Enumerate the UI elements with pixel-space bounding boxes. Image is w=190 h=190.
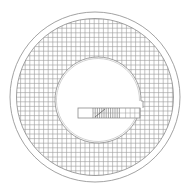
inner-circle-arc-secondary — [56, 59, 139, 142]
inner-circle-arc — [55, 57, 143, 143]
grid-hatch — [0, 0, 190, 190]
slot-bar — [78, 108, 140, 118]
circular-grid-diagram — [0, 0, 190, 190]
